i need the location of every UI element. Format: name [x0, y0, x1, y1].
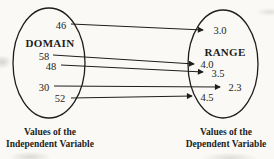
domain-title: DOMAIN [26, 38, 75, 49]
domain-value-52: 52 [55, 93, 66, 104]
independent-caption-line1: Values of the [6, 127, 94, 139]
arrow-58-to-4.0 [53, 55, 194, 64]
range-value-3.5: 3.5 [211, 68, 224, 79]
domain-value-48: 48 [46, 61, 57, 72]
range-value-2.3: 2.3 [228, 82, 241, 93]
dependent-caption-line2: Dependent Variable [186, 139, 267, 151]
independent-variable-caption: Values of the Independent Variable [6, 127, 94, 150]
range-title: RANGE [204, 47, 245, 58]
domain-value-46: 46 [56, 20, 67, 31]
mapping-diagram: 46 DOMAIN 58 48 30 52 3.0 RANGE 4.0 3.5 … [0, 0, 274, 159]
range-value-3.0: 3.0 [213, 25, 226, 36]
arrow-46-to-3.0 [71, 24, 203, 30]
range-value-4.5: 4.5 [200, 92, 213, 103]
domain-value-30: 30 [39, 82, 50, 93]
arrow-30-to-2.3 [54, 86, 220, 87]
dependent-caption-line1: Values of the [186, 127, 267, 139]
independent-caption-line2: Independent Variable [6, 139, 94, 151]
arrow-48-to-3.5 [61, 65, 203, 72]
dependent-variable-caption: Values of the Dependent Variable [186, 127, 267, 150]
arrow-52-to-4.5 [71, 96, 192, 98]
